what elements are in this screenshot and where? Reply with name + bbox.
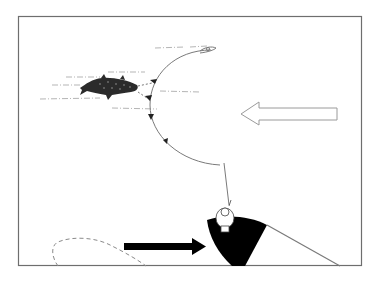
- leaping-fish: [80, 74, 138, 100]
- line-arc: [150, 50, 220, 165]
- rod-line: [224, 163, 229, 205]
- frame: [19, 17, 362, 266]
- direction-arrows: [145, 79, 168, 144]
- diagram-stage: [0, 0, 378, 284]
- outline-arrow-left: [241, 102, 337, 125]
- solid-arrow-right: [124, 238, 206, 255]
- arrowhead-icon: [148, 114, 154, 120]
- boat-wake-line: [267, 225, 340, 266]
- fishing-diagram: [0, 0, 378, 284]
- boat: [207, 217, 267, 266]
- arrowhead-icon: [145, 95, 152, 101]
- drift-path: [53, 238, 146, 266]
